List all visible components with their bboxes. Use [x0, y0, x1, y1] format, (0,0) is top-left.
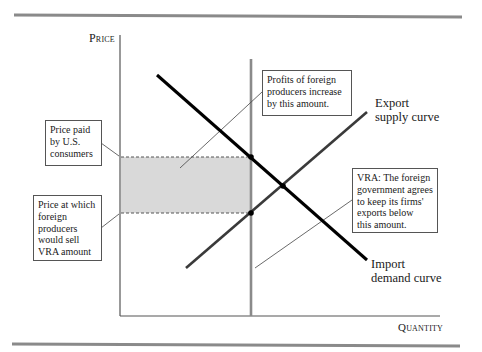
- profits-line2: producers increase: [267, 86, 347, 98]
- supply-vra-point: [248, 210, 254, 216]
- price-sell-line5: VRA amount: [38, 246, 97, 258]
- y-axis-label: Price: [89, 32, 115, 45]
- price-paid-line3: consumers: [50, 148, 97, 160]
- import-demand-label-line2: demand curve: [371, 271, 441, 285]
- profit-area: [121, 157, 251, 213]
- vra-line1: VRA: The foreign: [357, 172, 433, 184]
- export-supply-label-line1: Export: [375, 96, 439, 110]
- profits-line3: by this amount.: [267, 98, 347, 110]
- vra-line4: exports below: [357, 207, 433, 219]
- export-supply-label-line2: supply curve: [375, 110, 439, 124]
- price-paid-line1: Price paid: [50, 124, 97, 136]
- demand-vra-point: [248, 154, 254, 160]
- export-supply-label: Export supply curve: [375, 96, 439, 125]
- price-paid-annotation-box: Price paid by U.S. consumers: [45, 120, 102, 166]
- bottom-rule: [12, 344, 460, 346]
- import-demand-label-line1: Import: [371, 257, 441, 271]
- equilibrium-point: [280, 183, 286, 189]
- price-sell-line4: would sell: [38, 234, 97, 246]
- price-paid-leader-line: [101, 143, 119, 156]
- price-paid-line2: by U.S.: [50, 136, 97, 148]
- vra-line5: this amount.: [357, 219, 433, 231]
- import-demand-label: Import demand curve: [371, 257, 441, 286]
- price-sell-annotation-box: Price at which foreign producers would s…: [33, 195, 102, 261]
- vra-annotation-box: VRA: The foreign government agrees to ke…: [352, 168, 438, 233]
- x-axis-label: Quantity: [398, 321, 443, 333]
- vra-line3: to keep its firms': [357, 196, 433, 208]
- top-rule: [14, 15, 462, 17]
- profits-line1: Profits of foreign: [267, 74, 347, 86]
- profits-annotation-box: Profits of foreign producers increase by…: [262, 70, 352, 116]
- price-sell-line1: Price at which: [38, 199, 97, 211]
- vra-line2: government agrees: [357, 184, 433, 196]
- price-sell-line3: producers: [38, 223, 97, 235]
- price-sell-line2: foreign: [38, 211, 97, 223]
- price-sell-leader-line: [101, 214, 119, 228]
